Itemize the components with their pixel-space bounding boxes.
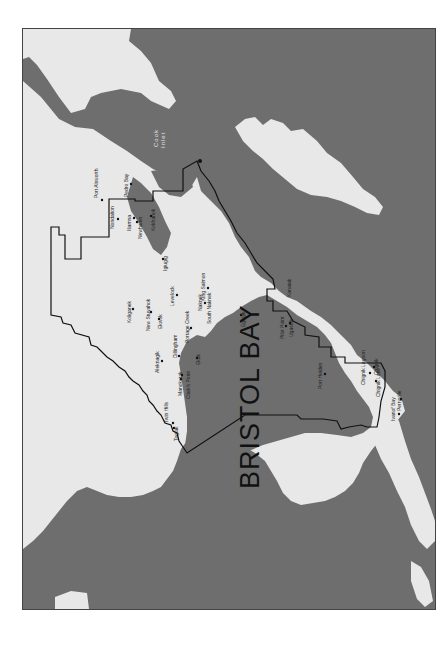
marker-chignik-lagoon xyxy=(369,372,371,374)
marker-pilot-point xyxy=(285,325,287,327)
label-ekwok: Ekwok xyxy=(157,314,163,329)
label-iliamna: Iliamna xyxy=(126,215,132,231)
label-south-naknek: South Naknek xyxy=(206,292,212,324)
marker-port-heiden xyxy=(324,373,326,375)
label-port-heiden: Port Heiden xyxy=(317,362,323,389)
label-igiugig: Igiugig xyxy=(162,256,168,271)
label-ekuk: Ekuk xyxy=(195,353,201,365)
label-naknek: Naknek xyxy=(197,294,203,311)
marker-aleknagik xyxy=(161,360,163,362)
label-newhalen: Newhalen xyxy=(137,217,143,239)
label-nondalton: Nondalton xyxy=(109,206,115,229)
marker-levelock xyxy=(176,294,178,296)
marker-king-salmon xyxy=(207,287,209,289)
water-label-cook-inlet: Cook Inlet xyxy=(153,129,166,148)
label-perryville: Perryville xyxy=(396,390,402,411)
marker-portage-creek xyxy=(190,327,192,329)
label-manokotak: Manokotak xyxy=(177,371,183,396)
label-koliganek: Koliganek xyxy=(126,301,132,323)
marker-pedro-bay xyxy=(130,183,132,185)
map-canvas: Port Alsworth Nondalton Pedro Bay Iliamn… xyxy=(23,29,435,609)
marker-boundary-corner xyxy=(198,159,202,163)
label-clarks-point: Clark's Point xyxy=(185,370,191,399)
region-title: BRISTOL BAY xyxy=(235,304,265,489)
label-kanatak: Kanatak xyxy=(286,278,292,297)
svg-text:Inlet: Inlet xyxy=(160,132,166,148)
marker-koliganek xyxy=(132,308,134,310)
label-port-alsworth: Port Alsworth xyxy=(93,168,99,198)
marker-nondalton xyxy=(117,218,119,220)
label-togiak: Togiak xyxy=(173,426,179,441)
label-new-stuyahok: New Stuyahok xyxy=(145,298,151,331)
marker-iliamna xyxy=(133,217,135,219)
label-ugashik: Ugashik xyxy=(288,318,294,337)
label-chignik-lake: Chignik Lake xyxy=(375,368,381,397)
svg-text:Cook: Cook xyxy=(153,129,159,147)
label-pilot-point: Pilot Point xyxy=(279,316,285,339)
marker-ivanof-bay xyxy=(398,413,400,415)
label-portage-creek: Portage Creek xyxy=(184,310,190,343)
label-levelock: Levelock xyxy=(169,286,175,306)
marker-port-alsworth xyxy=(101,199,103,201)
map-frame: Port Alsworth Nondalton Pedro Bay Iliamn… xyxy=(22,28,436,610)
label-pedro-bay: Pedro Bay xyxy=(123,173,129,197)
label-twin-hills: Twin Hills xyxy=(163,401,169,423)
marker-dillingham xyxy=(178,355,180,357)
marker-twin-hills xyxy=(172,422,174,424)
label-dillingham: Dillingham xyxy=(172,335,178,358)
label-kokhanok: Kokhanok xyxy=(150,208,156,231)
label-aleknagik: Aleknagik xyxy=(154,351,160,373)
label-chignik-lagoon: Chignik Lagoon xyxy=(360,350,366,385)
